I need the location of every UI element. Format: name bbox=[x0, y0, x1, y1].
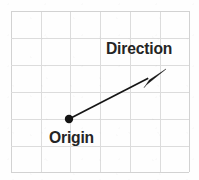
diagram-canvas bbox=[0, 0, 199, 180]
vector-diagram-figure: Direction Origin bbox=[0, 0, 199, 180]
grid-vertical-lines bbox=[12, 11, 190, 172]
origin-label: Origin bbox=[49, 129, 94, 146]
direction-vector bbox=[69, 69, 166, 119]
direction-label: Direction bbox=[106, 40, 172, 57]
vector-shaft-line bbox=[69, 78, 148, 119]
grid-group bbox=[11, 11, 190, 173]
origin-point-marker bbox=[65, 115, 73, 123]
